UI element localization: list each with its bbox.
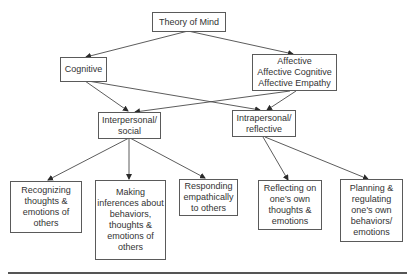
node-interpersonal-social: Interpersonal/ social	[98, 112, 161, 139]
node-label: Making inferences about behaviors, thoug…	[97, 187, 164, 253]
node-intrapersonal-reflective: Intrapersonal/ reflective	[232, 110, 296, 137]
node-responding: Responding empathically to others	[179, 179, 238, 216]
node-cognitive: Cognitive	[60, 57, 107, 82]
node-making-inferences: Making inferences about behaviors, thoug…	[95, 180, 166, 260]
node-label: Reflecting on one's own thoughts & emoti…	[264, 183, 317, 227]
edge-interpersonal-responding	[130, 138, 205, 178]
edge-affective-intrapersonal	[267, 91, 296, 110]
edge-root-affective	[188, 31, 293, 54]
node-affective: Affective Affective Cognitive Affective …	[252, 54, 337, 91]
node-label: Recognizing thoughts & emotions of other…	[21, 185, 71, 229]
node-label: Theory of Mind	[159, 17, 219, 28]
edge-cognitive-intrapersonal	[88, 81, 260, 110]
edge-intrapersonal-planning	[265, 137, 368, 179]
node-label: Planning & regulating one's own behavior…	[350, 183, 394, 238]
node-planning: Planning & regulating one's own behavior…	[340, 179, 403, 242]
theory-of-mind-diagram: Theory of Mind Cognitive Affective Affec…	[0, 0, 415, 276]
edge-interpersonal-recognizing	[48, 138, 129, 180]
node-label: Cognitive	[65, 64, 103, 75]
node-recognizing: Recognizing thoughts & emotions of other…	[10, 181, 82, 233]
node-label: Interpersonal/ social	[102, 115, 157, 137]
node-label: Intrapersonal/ reflective	[236, 113, 291, 135]
node-label: Responding empathically to others	[183, 181, 233, 214]
edge-root-cognitive	[86, 31, 188, 57]
node-label: Affective Affective Cognitive Affective …	[257, 56, 331, 89]
node-theory-of-mind: Theory of Mind	[152, 12, 226, 32]
edge-cognitive-interpersonal	[85, 81, 128, 111]
bottom-divider	[8, 272, 407, 274]
node-reflecting: Reflecting on one's own thoughts & emoti…	[258, 180, 322, 230]
edge-affective-interpersonal	[135, 91, 290, 112]
edge-intrapersonal-reflecting	[263, 137, 288, 180]
